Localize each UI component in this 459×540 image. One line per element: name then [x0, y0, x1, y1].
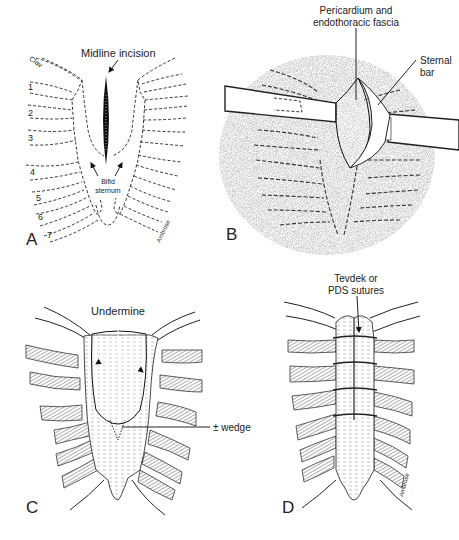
operative-field — [219, 55, 435, 255]
label-pds-sutures: PDS sutures — [328, 285, 384, 296]
incision-arrow — [109, 60, 118, 72]
undermined-area — [92, 331, 147, 424]
sternum-d — [336, 316, 374, 500]
ribs-right-d — [374, 340, 414, 488]
label-pericardium: Pericardium and — [320, 5, 393, 16]
rib-number-5: 5 — [36, 193, 41, 203]
bifid-arrow-right — [115, 163, 122, 176]
panel-letter-c: C — [26, 498, 38, 517]
label-midline-incision: Midline incision — [81, 47, 156, 59]
rib-number-7: 7 — [47, 230, 52, 240]
rib-number-1: 1 — [28, 82, 33, 92]
panel-letter-d: D — [282, 498, 294, 517]
label-undermine: Undermine — [91, 305, 145, 317]
midline-incision — [103, 76, 109, 165]
label-sternal: Sternal — [420, 55, 452, 66]
panel-letter-b: B — [226, 225, 237, 244]
label-clavicle: Clav — [28, 55, 44, 69]
rib-number-6: 6 — [38, 212, 43, 222]
panel-c: Undermine ± wedge C — [26, 305, 251, 517]
panel-d: Tevdek or PDS sutures Ambrose D — [282, 273, 420, 517]
rib-number-4: 4 — [30, 167, 35, 177]
label-tevdek: Tevdek or — [334, 273, 378, 284]
label-bifid: Bifid — [101, 178, 115, 185]
rib-lines-right — [120, 74, 188, 232]
ribs-left-d — [288, 340, 336, 482]
artist-signature-a: Ambrose — [155, 219, 171, 244]
bifid-arrow-left — [91, 163, 98, 176]
surgical-figure: Midline incision Bifid sternum Clav 1 2 … — [0, 0, 459, 540]
rib-number-2: 2 — [28, 108, 33, 118]
panel-letter-a: A — [26, 230, 38, 249]
sternum-right-half — [114, 58, 175, 214]
panel-a: Midline incision Bifid sternum Clav 1 2 … — [26, 47, 188, 249]
label-endothoracic-fascia: endothoracic fascia — [313, 17, 400, 28]
rib-number-3: 3 — [28, 133, 33, 143]
label-wedge: ± wedge — [213, 422, 251, 433]
rib-lines-left — [26, 58, 98, 242]
panel-b: Pericardium and endothoracic fascia Ster… — [219, 5, 459, 255]
label-sternum: sternum — [95, 187, 120, 194]
label-bar: bar — [420, 67, 435, 78]
sternum-left-half — [42, 58, 102, 214]
